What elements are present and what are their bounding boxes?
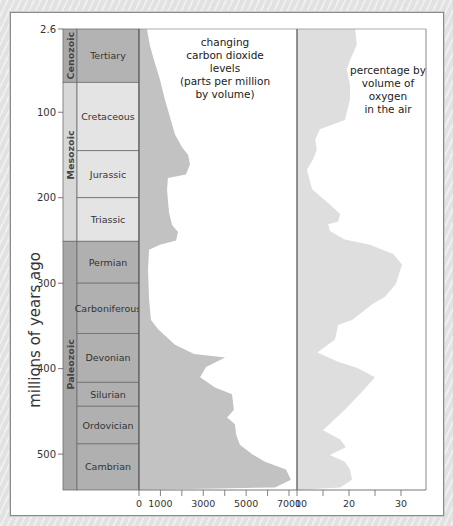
o2-x-tick-label: 20: [343, 498, 355, 509]
era-label-mesozoic: Mesozoic: [65, 130, 76, 179]
co2-x-tick-label: 3000: [191, 498, 215, 509]
y-tick-label: 100: [37, 107, 56, 118]
y-tick-label: 2.6: [40, 24, 56, 35]
period-label-jurassic: Jurassic: [89, 169, 126, 180]
y-tick-label: 500: [37, 449, 56, 460]
co2-annotation-line: by volume): [195, 88, 254, 100]
period-label-carboniferous: Carboniferous: [75, 303, 142, 314]
period-label-tertiary: Tertiary: [89, 50, 126, 61]
geologic-timescale: CenozoicMesozoicPaleozoicTertiaryCretace…: [63, 29, 141, 490]
co2-x-tick-label: 0: [136, 498, 142, 509]
period-label-triassic: Triassic: [90, 214, 126, 225]
period-label-cretaceous: Cretaceous: [81, 111, 135, 122]
co2-annotation-line: carbon dioxide: [186, 49, 264, 61]
period-label-permian: Permian: [89, 257, 128, 268]
o2-annotation-line: oxygen: [369, 90, 407, 102]
era-label-cenozoic: Cenozoic: [65, 32, 76, 80]
co2-x-tick-label: 5000: [234, 498, 258, 509]
y-axis-title: millions of years ago: [26, 252, 44, 408]
period-label-devonian: Devonian: [85, 352, 130, 363]
co2-annotation-line: changing: [201, 36, 249, 48]
o2-annotation-line: percentage by: [350, 64, 426, 76]
co2-panel: changingcarbon dioxidelevels(parts per m…: [139, 29, 297, 490]
period-label-cambrian: Cambrian: [85, 461, 131, 472]
o2-annotation-line: volume of: [362, 77, 415, 89]
o2-x-tick-label: 10: [295, 498, 307, 509]
geologic-co2-o2-chart: CenozoicMesozoicPaleozoicTertiaryCretace…: [0, 0, 453, 526]
co2-x-tick-label: 1000: [148, 498, 172, 509]
period-label-ordovician: Ordovician: [82, 420, 133, 431]
o2-x-tick-label: 30: [395, 498, 407, 509]
co2-annotation-line: levels: [210, 62, 240, 74]
o2-panel: percentage byvolume ofoxygenin the air: [297, 29, 426, 490]
co2-annotation-line: (parts per million: [180, 75, 270, 87]
o2-annotation-line: in the air: [364, 103, 412, 115]
y-tick-label: 200: [37, 192, 56, 203]
era-label-paleozoic: Paleozoic: [65, 339, 76, 389]
period-label-silurian: Silurian: [90, 389, 126, 400]
